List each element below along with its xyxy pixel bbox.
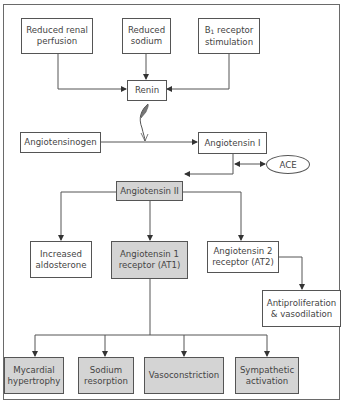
renin-action-arrow-icon (140, 104, 148, 141)
b1-label: B1 receptor stimulation (205, 25, 254, 48)
node-angiotensinogen: Angiotensinogen (20, 132, 101, 153)
node-at1-receptor: Angiotensin 1 receptor (AT1) (111, 241, 188, 279)
node-reduced-sodium: Reduced sodium (122, 18, 171, 54)
node-angiotensin-1: Angiotensin I (198, 132, 267, 154)
node-b1-receptor-stimulation: B1 receptor stimulation (198, 18, 260, 54)
node-at2-receptor: Angiotensin 2 receptor (AT2) (207, 241, 279, 273)
node-reduced-renal-perfusion: Reduced renal perfusion (21, 18, 93, 54)
connector-lines (0, 0, 346, 414)
node-antiproliferation-vasodilation: Antiproliferation & vasodilation (262, 290, 341, 327)
node-vasoconstriction: Vasoconstriction (144, 357, 224, 394)
node-sympathetic-activation: Sympathetic activation (235, 357, 299, 394)
node-renin: Renin (127, 80, 167, 101)
node-angiotensin-2: Angiotensin II (116, 181, 183, 201)
node-sodium-resorption: Sodium resorption (78, 357, 134, 394)
node-increased-aldosterone: Increased aldosterone (30, 241, 92, 278)
node-myocardial-hypertrophy: Mycardial hypertrophy (4, 357, 64, 394)
node-ace: ACE (266, 155, 310, 174)
